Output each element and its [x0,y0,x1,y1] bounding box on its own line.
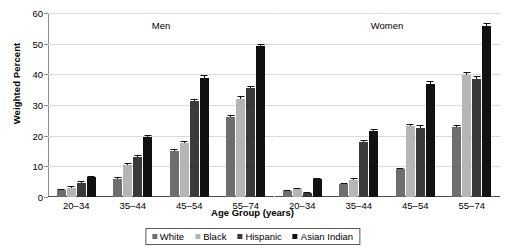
bar-slot [67,188,76,197]
x-axis-title: Age Group (years) [0,207,505,218]
bar-white [283,191,292,197]
bar-group: 55–74 [218,13,275,197]
bar-slot [426,84,435,197]
error-bar-cap-top [360,140,367,141]
bar-black [293,189,302,197]
bar-asian-indian [313,179,322,197]
error-bar-cap-top [407,124,414,125]
error-bar-cap-top [463,72,470,73]
bar-hispanic [303,193,312,197]
bar-slot [123,165,132,197]
bar-slot [369,131,378,197]
bar-slot [339,184,348,197]
bar-slot [396,169,405,197]
legend-item-asian-indian: Asian Indian [293,231,353,242]
bar-slot [143,137,152,197]
bar-slot [57,190,66,197]
bar-asian-indian [426,84,435,197]
legend-label: White [160,231,184,242]
error-bar-cap-top [417,125,424,126]
error-bar-cap-top [427,81,434,82]
bar-asian-indian [87,177,96,197]
bar-slot [133,157,142,197]
bar-slot [313,179,322,197]
bar-slot [359,142,368,197]
bar-hispanic [472,79,481,197]
y-axis-tick-label: 10 [32,161,43,172]
bar-hispanic [77,183,86,197]
bar-asian-indian [482,26,491,197]
bar-black [406,126,415,197]
panel-women: Women20–3435–4445–5455–74 [274,13,500,197]
bar-slot [482,26,491,197]
y-axis-tick-label: 60 [32,8,43,19]
y-axis-tick-label: 20 [32,130,43,141]
bar-group: 35–44 [105,13,162,197]
error-bar-cap-top [191,99,198,100]
bar-black [349,180,358,197]
bar-white [452,127,461,197]
error-bar-cap-top [237,96,244,97]
error-bar-cap-top [257,44,264,45]
bar-hispanic [359,142,368,197]
bar-hispanic [246,88,255,197]
bar-white [113,179,122,197]
legend-label: Hispanic [245,231,281,242]
bar-slot [416,128,425,197]
bar-white [57,190,66,197]
legend-item-hispanic: Hispanic [237,231,281,242]
bar-white [170,151,179,197]
error-bar-cap-top [473,76,480,77]
bar-slot [303,193,312,197]
bar-group: 35–44 [331,13,388,197]
bar-slot [406,126,415,197]
legend-swatch-icon [195,234,200,239]
bar-black [462,75,471,197]
bar-slot [226,117,235,197]
bar-white [396,169,405,197]
y-tick-mark [44,197,48,198]
error-bar-cap-top [181,141,188,142]
legend-label: Black [203,231,226,242]
bar-group: 55–74 [444,13,501,197]
bar-slot [170,151,179,197]
bar-asian-indian [256,46,265,197]
bar-group: 20–34 [274,13,331,197]
bar-groups: 20–3435–4445–5455–74 [48,13,274,197]
bar-asian-indian [369,131,378,197]
bar-hispanic [190,101,199,197]
error-bar-cap-top [124,163,131,164]
bar-slot [283,191,292,197]
y-axis-tick-label: 40 [32,69,43,80]
bar-slot [87,177,96,197]
bar-white [339,184,348,197]
bar-slot [462,75,471,197]
bar-black [123,165,132,197]
bar-group: 45–54 [387,13,444,197]
bar-slot [200,78,209,197]
bar-black [180,143,189,197]
error-bar-cap-top [247,86,254,87]
bar-black [67,188,76,197]
y-axis-tick-label: 30 [32,100,43,111]
bar-slot [190,101,199,197]
bar-group: 20–34 [48,13,105,197]
legend-swatch-icon [237,234,242,239]
legend-label: Asian Indian [301,231,353,242]
legend-item-white: White [152,231,184,242]
bar-asian-indian [200,78,209,197]
error-bar-cap-top [201,75,208,76]
error-bar-cap-top [370,129,377,130]
error-bar-cap-top [144,135,151,136]
bar-slot [236,99,245,197]
chart-figure: Weighted Percent 0102030405060 Men20–343… [0,0,505,251]
chart-legend: WhiteBlackHispanicAsian Indian [145,228,360,245]
bar-hispanic [416,128,425,197]
bar-asian-indian [143,137,152,197]
bar-slot [77,183,86,197]
plot-area: 0102030405060 Men20–3435–4445–5455–74Wom… [48,13,500,197]
bar-slot [293,189,302,197]
y-axis-tick-label: 0 [38,192,43,203]
bar-slot [180,143,189,197]
bar-slot [246,88,255,197]
